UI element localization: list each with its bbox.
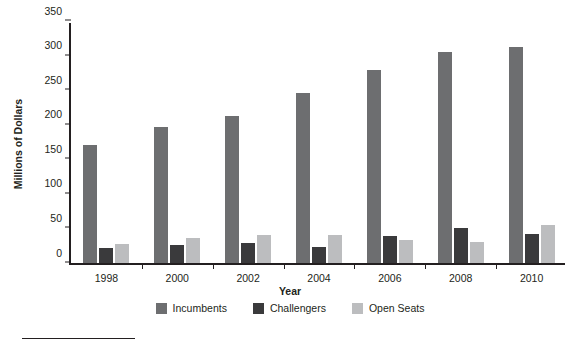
bar — [399, 240, 413, 264]
y-tick-label: 300 — [44, 40, 62, 51]
y-tick-label: 0 — [56, 247, 62, 258]
bar-group: 2002 — [213, 23, 284, 263]
bar — [115, 244, 129, 263]
bar-group: 2006 — [354, 23, 425, 263]
bar — [367, 70, 381, 263]
y-tick-label: 150 — [44, 144, 62, 155]
legend-label: Incumbents — [173, 303, 227, 314]
bar — [470, 242, 484, 263]
legend-swatch-icon — [253, 303, 264, 314]
x-tick-label: 2004 — [307, 273, 330, 284]
bar — [541, 225, 555, 263]
legend-item[interactable]: Open Seats — [352, 303, 424, 314]
bar — [154, 127, 168, 263]
bar — [257, 235, 271, 263]
x-tick-label: 2000 — [166, 273, 189, 284]
bar — [525, 234, 539, 263]
x-tick-label: 1998 — [95, 273, 118, 284]
bar-group: 2010 — [496, 23, 567, 263]
bar — [328, 235, 342, 263]
x-tick-label: 2002 — [236, 273, 259, 284]
bar — [225, 116, 239, 263]
bar — [312, 247, 326, 263]
bar — [438, 52, 452, 263]
bar — [99, 248, 113, 263]
y-tick-label: 200 — [44, 109, 62, 120]
legend-swatch-icon — [352, 303, 363, 314]
chart-figure: Millions of Dollars 05010015020025030035… — [0, 0, 580, 343]
x-tick-label: 2010 — [520, 273, 543, 284]
bar — [509, 47, 523, 263]
plot-area: 050100150200250300350 199820002002200420… — [69, 23, 565, 265]
x-tick-mark — [496, 263, 497, 269]
legend-item[interactable]: Challengers — [253, 303, 326, 314]
bar-group: 2008 — [425, 23, 496, 263]
bar — [170, 245, 184, 263]
x-tick-mark — [354, 263, 355, 269]
x-tick-label: 2008 — [449, 273, 472, 284]
legend-item[interactable]: Incumbents — [156, 303, 227, 314]
bar — [383, 236, 397, 263]
bar-group: 2004 — [284, 23, 355, 263]
chart-legend: IncumbentsChallengersOpen Seats — [0, 303, 580, 314]
bar — [296, 93, 310, 263]
footer-rule — [22, 338, 135, 339]
y-axis-title: Millions of Dollars — [12, 99, 24, 189]
bar — [83, 145, 97, 263]
x-tick-mark — [425, 263, 426, 269]
y-tick-label: 50 — [50, 213, 62, 224]
bar — [186, 238, 200, 263]
y-tick-label: 250 — [44, 74, 62, 85]
bar — [241, 243, 255, 263]
x-tick-mark — [213, 263, 214, 269]
x-tick-label: 2006 — [378, 273, 401, 284]
x-tick-mark — [284, 263, 285, 269]
bar — [454, 228, 468, 263]
x-axis-title: Year — [0, 285, 580, 297]
bar-group: 1998 — [71, 23, 142, 263]
bar-group: 2000 — [142, 23, 213, 263]
legend-label: Open Seats — [369, 303, 424, 314]
legend-swatch-icon — [156, 303, 167, 314]
y-tick-label: 350 — [44, 5, 62, 16]
y-tick-mark — [65, 20, 71, 21]
x-tick-mark — [142, 263, 143, 269]
legend-label: Challengers — [270, 303, 326, 314]
y-tick-label: 100 — [44, 178, 62, 189]
